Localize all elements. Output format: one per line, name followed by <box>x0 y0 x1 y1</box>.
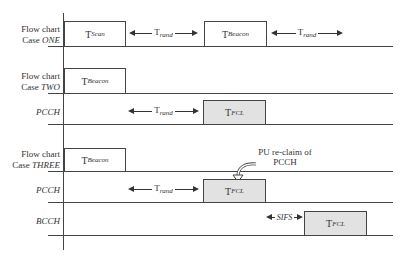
baseline-bcch <box>48 235 393 236</box>
label-channel: PCCH <box>36 107 60 117</box>
baseline-pcch-three <box>48 202 393 203</box>
label-line1: Flow chart <box>2 24 60 35</box>
arrow-label: Trand <box>296 27 319 39</box>
box-sub: Beacon <box>88 77 109 85</box>
arrow-right-head-icon <box>337 30 343 36</box>
box-t-fcl-pcch-three: TFCL <box>203 179 266 202</box>
label-bcch: BCCH <box>2 216 60 227</box>
arrow-t-rand-1: Trand <box>129 28 198 38</box>
box-sub: FCL <box>231 187 244 195</box>
label-case: ONE <box>42 35 60 45</box>
box-sub: Scan <box>91 30 105 38</box>
box-t-beacon-two: TBeacon <box>64 68 126 93</box>
box-sub: Beacon <box>228 30 249 38</box>
label-channel: PCCH <box>36 185 60 195</box>
arrow-t-rand-2: Trand <box>271 28 343 38</box>
arrow-right-head-icon <box>193 108 199 114</box>
arrow-t-rand-4: Trand <box>128 184 199 194</box>
arrow-sifs: SIFS <box>266 212 303 222</box>
arrow-label: Trand <box>152 27 175 39</box>
annotation-line1: PU re-claim of <box>245 147 325 157</box>
label-case-two: Flow chart Case TWO <box>2 71 60 93</box>
label-channel: BCCH <box>36 216 60 226</box>
arrow-label: SIFS <box>275 213 295 222</box>
label-case: THREE <box>32 160 60 170</box>
label-case-three: Flow chart Case THREE <box>2 149 60 171</box>
label-case-one: Flow chart Case ONE <box>2 24 60 46</box>
label-pcch-three: PCCH <box>2 185 60 196</box>
box-sub: Beacon <box>88 156 109 164</box>
arrow-right-head-icon <box>297 214 303 220</box>
baseline-case-one <box>48 46 393 47</box>
baseline-case-three <box>48 171 393 172</box>
box-sub: FCL <box>332 220 345 228</box>
baseline-pcch-two <box>48 124 393 125</box>
label-line2: Case TWO <box>2 82 60 93</box>
label-prefix: Case <box>21 82 41 92</box>
arrow-t-rand-3: Trand <box>128 106 199 116</box>
label-line1: Flow chart <box>2 71 60 82</box>
box-sub: FCL <box>231 109 244 117</box>
box-t-beacon-one: TBeacon <box>204 21 267 46</box>
label-line2: Case THREE <box>2 160 60 171</box>
label-line1: Flow chart <box>2 149 60 160</box>
label-line2: Case ONE <box>2 35 60 46</box>
arrow-right-head-icon <box>193 186 199 192</box>
label-prefix: Case <box>12 160 32 170</box>
vertical-axis <box>63 13 64 250</box>
box-t-scan: TScan <box>64 21 126 46</box>
label-pcch-two: PCCH <box>2 107 60 118</box>
box-t-fcl-bcch: TFCL <box>304 211 367 235</box>
box-t-beacon-three: TBeacon <box>64 148 126 171</box>
label-case: TWO <box>41 82 60 92</box>
arrow-right-head-icon <box>192 30 198 36</box>
baseline-case-two <box>48 93 393 94</box>
box-t-fcl-pcch-two: TFCL <box>203 100 266 124</box>
label-prefix: Case <box>22 35 42 45</box>
arrow-label: Trand <box>152 183 175 195</box>
arrow-label: Trand <box>152 105 175 117</box>
